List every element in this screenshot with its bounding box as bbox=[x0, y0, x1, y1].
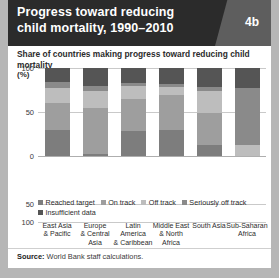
bar-segment-off-track bbox=[159, 87, 184, 95]
legend-swatch-icon bbox=[141, 200, 146, 205]
source-text: World Bank staff calculations. bbox=[47, 252, 144, 261]
page-title-line1: Progress toward reducing bbox=[17, 4, 222, 20]
legend-swatch-icon bbox=[101, 200, 106, 205]
figure-number-badge: 4b bbox=[245, 15, 259, 29]
legend-item-on-track: On track bbox=[101, 198, 136, 208]
x-axis-label-4: South Asia bbox=[188, 222, 230, 230]
bar-segment-insufficient-data bbox=[159, 68, 184, 84]
legend-item-label: On track bbox=[108, 198, 135, 207]
bar-segment-on-track bbox=[83, 108, 108, 154]
table-row bbox=[45, 68, 70, 156]
bar-segment-insufficient-data bbox=[83, 68, 108, 86]
legend-swatch-icon bbox=[182, 200, 187, 205]
header-corner-shape bbox=[215, 0, 271, 46]
page-title: Progress toward reducing child mortality… bbox=[17, 4, 222, 36]
bar-segment-on-track bbox=[197, 113, 222, 146]
legend-item-seriously-off-track: Seriously off track bbox=[182, 198, 247, 208]
legend-item-label: Seriously off track bbox=[189, 198, 246, 207]
legend-item-label: Reached target bbox=[46, 198, 95, 207]
source-divider bbox=[8, 248, 271, 249]
bar-segment-reached-target bbox=[197, 145, 222, 156]
table-row bbox=[121, 68, 146, 156]
y-tick-label-50: 50 bbox=[12, 108, 34, 117]
x-axis-label-1: Europe & Central Asia bbox=[74, 222, 116, 247]
y-tick-label-0: 0 bbox=[12, 152, 34, 161]
table-row bbox=[83, 68, 108, 156]
bar-segment-insufficient-data bbox=[235, 68, 260, 88]
bar-segment-reached-target bbox=[45, 130, 70, 156]
legend-swatch-icon bbox=[38, 200, 43, 205]
figure-panel: Progress toward reducing child mortality… bbox=[8, 0, 271, 268]
x-axis-label-5: Sub-Saharan Africa bbox=[226, 222, 268, 239]
bar-segment-reached-target bbox=[83, 154, 108, 156]
legend-item-off-track: Off track bbox=[141, 198, 176, 208]
figure-header: Progress toward reducing child mortality… bbox=[8, 0, 271, 46]
legend-item-label: Off track bbox=[149, 198, 176, 207]
bar-segment-on-track bbox=[45, 103, 70, 129]
table-row bbox=[159, 68, 184, 156]
legend-item-insufficient-data: Insufficient data bbox=[38, 208, 96, 218]
table-row bbox=[235, 68, 260, 156]
x-axis-label-0: East Asia & Pacific bbox=[36, 222, 78, 239]
bar-segment-insufficient-data bbox=[45, 68, 70, 82]
chart-legend: Reached targetOn trackOff trackSeriously… bbox=[38, 198, 268, 218]
bar-segment-seriously-off-track bbox=[235, 88, 260, 144]
bar-segment-reached-target bbox=[121, 131, 146, 156]
bar-segment-on-track bbox=[121, 99, 146, 132]
legend-item-label: Insufficient data bbox=[46, 208, 96, 217]
x-axis-label-2: Latin America & Caribbean bbox=[112, 222, 154, 247]
bar-segment-insufficient-data bbox=[197, 68, 222, 87]
page-title-line2: child mortality, 1990–2010 bbox=[17, 20, 222, 36]
y-tick-label-lower-50: 50 bbox=[12, 200, 34, 209]
bar-segment-insufficient-data bbox=[121, 68, 146, 83]
bar-segment-reached-target bbox=[159, 130, 184, 156]
y-tick-label-100: 100 bbox=[12, 64, 34, 73]
bar-segment-off-track bbox=[121, 86, 146, 98]
bar-segment-off-track bbox=[235, 145, 260, 156]
source-label: Source: bbox=[17, 252, 45, 261]
bar-segment-off-track bbox=[83, 91, 108, 109]
bar-segment-on-track bbox=[159, 95, 184, 129]
x-axis-label-3: Middle East & North Africa bbox=[150, 222, 192, 247]
bar-segment-off-track bbox=[197, 91, 222, 113]
legend-item-reached-target: Reached target bbox=[38, 198, 95, 208]
y-tick-label-lower-100: 100 bbox=[12, 218, 34, 227]
bar-segment-off-track bbox=[45, 88, 70, 103]
legend-swatch-icon bbox=[38, 210, 43, 215]
table-row bbox=[197, 68, 222, 156]
source-note: Source: World Bank staff calculations. bbox=[17, 252, 143, 261]
